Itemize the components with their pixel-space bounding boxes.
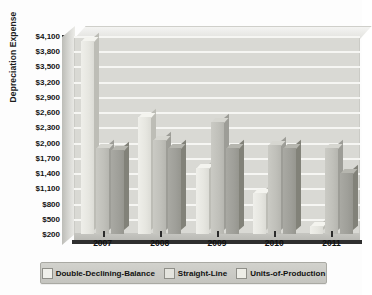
bar-face (268, 145, 281, 234)
legend-item-label: Straight-Line (178, 269, 227, 278)
y-axis-tick-label: $1,700 (36, 153, 60, 162)
bar-face (196, 168, 209, 234)
bar[interactable] (153, 140, 166, 234)
bar-side (124, 142, 129, 230)
bar-face (168, 148, 181, 234)
bar-group (246, 36, 303, 234)
x-axis-tick-mark (160, 231, 162, 237)
bar-side (239, 140, 244, 230)
y-axis-tick-label: $3,200 (36, 77, 60, 86)
bar[interactable] (111, 150, 124, 234)
y-axis-tick-label: $2,300 (36, 123, 60, 132)
x-axis-tick-label: 2011 (303, 238, 360, 252)
bar-face (283, 148, 296, 234)
bar-side (181, 140, 186, 230)
bar-group (74, 36, 131, 234)
bar[interactable] (340, 173, 353, 234)
bar-group (303, 36, 360, 234)
y-axis-tick-label: $200 (42, 230, 60, 239)
x-axis-labels: 20072008200920102011 (74, 238, 360, 252)
legend-item[interactable]: Straight-Line (164, 268, 227, 279)
bar-face (340, 173, 353, 234)
y-axis-tick-label: $3,800 (36, 47, 60, 56)
bar-face (81, 41, 94, 234)
chart-legend: Double-Declining-BalanceStraight-LineUni… (40, 262, 327, 284)
y-axis-tick-label: $1,400 (36, 169, 60, 178)
x-axis-tick-mark (331, 231, 333, 237)
bar[interactable] (226, 148, 239, 234)
y-axis-tick-label: $4,100 (36, 32, 60, 41)
bar-face (138, 117, 151, 234)
x-axis-tick-label: 2007 (74, 238, 131, 252)
bar[interactable] (253, 193, 266, 234)
bar[interactable] (268, 145, 281, 234)
bar-face (96, 148, 109, 234)
x-axis-tick-label: 2008 (131, 238, 188, 252)
legend-item-label: Units-of-Production (250, 269, 325, 278)
bar-side (296, 140, 301, 230)
y-axis-tick-label: $3,500 (36, 62, 60, 71)
legend-item[interactable]: Units-of-Production (236, 268, 325, 279)
x-axis-tick-label: 2010 (246, 238, 303, 252)
bar[interactable] (138, 117, 151, 234)
y-axis-tick-label: $800 (42, 199, 60, 208)
x-axis-tick-label: 2009 (188, 238, 245, 252)
bar[interactable] (81, 41, 94, 234)
bar-face (153, 140, 166, 234)
y-axis-tick-label: $2,000 (36, 138, 60, 147)
bar-group (188, 36, 245, 234)
y-axis-tick-label: $2,900 (36, 92, 60, 101)
bar-face (211, 122, 224, 234)
plot-area (74, 36, 360, 234)
x-axis-ticks (74, 231, 360, 237)
x-axis-tick-mark (103, 231, 105, 237)
y-axis-labels: $4,100$3,800$3,500$3,200$2,900$2,600$2,3… (0, 30, 66, 236)
bar[interactable] (283, 148, 296, 234)
legend-swatch-icon (42, 268, 53, 279)
y-axis-tick-label: $500 (42, 214, 60, 223)
legend-swatch-icon (236, 268, 247, 279)
bar[interactable] (196, 168, 209, 234)
bar-side (353, 165, 358, 230)
x-axis-tick-mark (274, 231, 276, 237)
bar-face (325, 148, 338, 234)
bar[interactable] (211, 122, 224, 234)
legend-item-label: Double-Declining-Balance (56, 269, 155, 278)
bar[interactable] (96, 148, 109, 234)
bar-group (131, 36, 188, 234)
bar[interactable] (325, 148, 338, 234)
bar-face (111, 150, 124, 234)
legend-item[interactable]: Double-Declining-Balance (42, 268, 155, 279)
bar-groups (74, 36, 360, 234)
x-axis-tick-mark (217, 231, 219, 237)
legend-swatch-icon (164, 268, 175, 279)
bar-face (253, 193, 266, 234)
bar-face (226, 148, 239, 234)
y-axis-tick-label: $2,600 (36, 108, 60, 117)
y-axis-tick-label: $1,100 (36, 184, 60, 193)
bar[interactable] (168, 148, 181, 234)
